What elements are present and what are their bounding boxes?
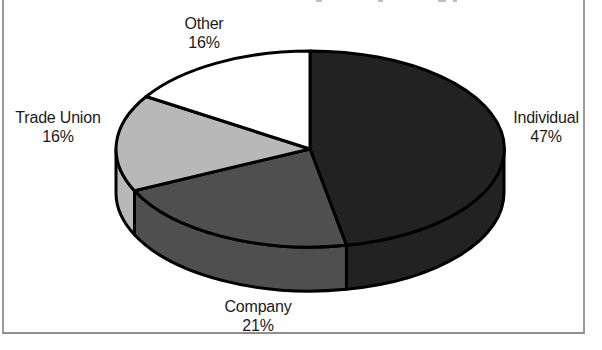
scanned-chart-page: Individual47%Company21%Trade Union16%Oth…	[0, 0, 602, 350]
label-trade-union-percent: 16%	[15, 127, 100, 146]
label-other: Other16%	[184, 14, 223, 52]
pie-chart-3d	[0, 0, 602, 350]
label-individual: Individual47%	[513, 108, 579, 146]
label-other-name: Other	[184, 14, 223, 33]
label-other-percent: 16%	[184, 33, 223, 52]
label-company-name: Company	[224, 297, 291, 316]
label-company-percent: 21%	[224, 316, 291, 335]
label-trade-union: Trade Union16%	[15, 108, 100, 146]
label-individual-percent: 47%	[513, 127, 579, 146]
label-company: Company21%	[224, 297, 291, 335]
label-individual-name: Individual	[513, 108, 579, 127]
label-trade-union-name: Trade Union	[15, 108, 100, 127]
